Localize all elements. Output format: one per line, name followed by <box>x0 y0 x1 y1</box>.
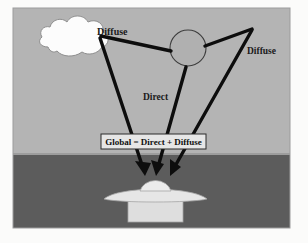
label-diffuse-left: Diffuse <box>97 26 128 37</box>
diagram-canvas: Diffuse Direct Diffuse Global = Direct +… <box>0 0 308 243</box>
irradiance-figure: Diffuse Direct Diffuse Global = Direct +… <box>0 0 308 243</box>
sun <box>170 30 206 66</box>
label-direct: Direct <box>143 92 169 102</box>
label-diffuse-right: Diffuse <box>247 46 276 56</box>
horizon-line <box>13 153 290 155</box>
equation-label: Global = Direct + Diffuse <box>105 137 202 147</box>
equation-box: Global = Direct + Diffuse <box>101 134 206 149</box>
